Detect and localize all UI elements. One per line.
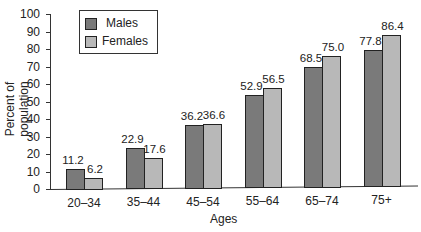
y-tick-label: 0: [0, 183, 40, 195]
bar-females: [263, 88, 282, 188]
value-label: 17.6: [135, 143, 175, 155]
x-tick-label: 65–74: [292, 194, 352, 208]
y-axis-line: [50, 14, 51, 190]
legend-label-females: Females: [102, 34, 148, 48]
legend-swatch-males: [85, 18, 97, 30]
bar-males: [185, 125, 204, 189]
value-label: 6.2: [75, 163, 115, 175]
y-tick-label: 100: [0, 8, 40, 20]
x-tick-label: 45–54: [173, 195, 233, 209]
value-label: 75.0: [313, 41, 353, 53]
legend-swatch-females: [85, 36, 97, 48]
legend: Males Females: [79, 10, 158, 54]
x-tick-label: 35–44: [114, 195, 174, 209]
bar-males: [304, 67, 323, 188]
bar-females: [144, 158, 163, 190]
bar-females: [382, 35, 401, 187]
x-tick-label: 20–34: [54, 196, 114, 210]
bar-males: [364, 50, 383, 187]
legend-label-males: Males: [106, 16, 138, 30]
bar-males: [245, 95, 264, 189]
value-label: 36.6: [194, 109, 234, 121]
bar-females: [203, 124, 222, 189]
x-axis-label: Ages: [210, 212, 237, 226]
bar-females: [84, 178, 103, 190]
y-tick-label: 10: [0, 166, 40, 178]
x-tick-label: 75+: [352, 193, 412, 207]
value-label: 56.5: [254, 73, 294, 85]
bar-females: [322, 56, 341, 188]
value-label: 86.4: [373, 20, 413, 32]
x-tick-label: 55–64: [233, 194, 293, 208]
y-tick-label: 90: [0, 26, 40, 38]
y-axis-label: Percent of population: [3, 54, 31, 164]
